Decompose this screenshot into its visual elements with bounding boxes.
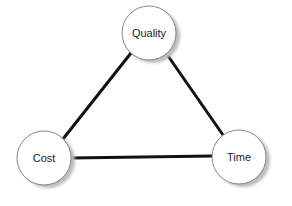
triangle-diagram: Quality Cost Time: [0, 0, 292, 206]
node-time: Time: [212, 130, 270, 187]
edge-quality-time: [166, 53, 223, 135]
node-cost-label: Cost: [33, 152, 56, 164]
node-time-label: Time: [227, 151, 251, 163]
edge-quality-cost: [63, 53, 131, 139]
node-cost: Cost: [17, 131, 75, 188]
edge-cost-time: [71, 156, 212, 158]
node-quality-label: Quality: [132, 27, 167, 39]
